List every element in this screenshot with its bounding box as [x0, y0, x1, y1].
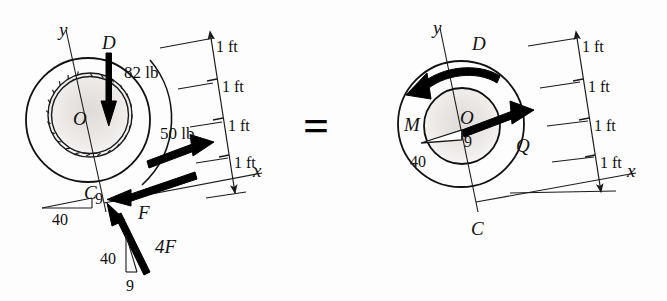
right-slope-rise-label: 9 [464, 133, 472, 150]
right-point-C-label: C [471, 218, 484, 239]
left-force-4F-label: 4F [155, 236, 177, 257]
right-x-axis-line [476, 173, 636, 202]
left-force-F-arrow [107, 172, 197, 206]
left-point-O-label: O [73, 108, 87, 129]
right-y-axis-label: y [431, 17, 442, 38]
left-force-82lb-label: 82 lb [124, 63, 158, 82]
left-diagram-group: y x D O C 82 lb 50 lb F 4F 9 40 40 9 1 f… [26, 19, 262, 294]
left-dimension-ladder [207, 38, 235, 193]
left-slope-4F-run-label: 40 [100, 250, 116, 267]
right-dim-label-2: 1 ft [588, 78, 610, 95]
right-slope-run-label: 40 [410, 153, 426, 170]
left-dim-label-4: 1 ft [234, 154, 256, 171]
left-y-axis-label: y [57, 19, 68, 40]
left-force-50lb-label: 50 lb [160, 124, 194, 143]
right-diagram-group: y x D O C M Q 9 40 1 ft 1 ft 1 ft 1 ft [398, 17, 636, 239]
figure-root: y x D O C 82 lb 50 lb F 4F 9 40 40 9 1 f… [0, 0, 667, 301]
right-force-Q-label: Q [516, 135, 530, 156]
right-dim-label-3: 1 ft [594, 117, 616, 134]
left-slope-C-run-label: 40 [52, 211, 68, 228]
right-dim-label-4: 1 ft [600, 154, 622, 171]
figure-canvas: y x D O C 82 lb 50 lb F 4F 9 40 40 9 1 f… [0, 0, 667, 301]
right-x-axis-label: x [626, 160, 636, 181]
right-moment-M-label: M [403, 114, 421, 135]
left-dim-label-3: 1 ft [228, 117, 250, 134]
left-slope-4F-rise-label: 9 [126, 277, 134, 294]
left-dim-label-2: 1 ft [222, 78, 244, 95]
right-dimension-ladder [573, 38, 601, 192]
right-point-D-label: D [471, 33, 486, 54]
right-point-O-label: O [460, 107, 474, 128]
left-slope-C-rise-label: 9 [95, 190, 103, 207]
right-dim-label-1: 1 ft [582, 38, 604, 55]
left-force-F-label: F [137, 202, 150, 223]
left-dim-label-1: 1 ft [216, 38, 238, 55]
left-point-D-label: D [101, 32, 116, 53]
equals-sign: = [303, 100, 329, 151]
